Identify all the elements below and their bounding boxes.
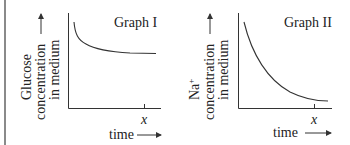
graph1-y-label-line3: in medium [48, 40, 62, 100]
graph1-title: Graph I [114, 16, 157, 30]
graph2-y-label-na: Na [187, 84, 202, 100]
graph2-x-tick-label: x [311, 113, 317, 127]
graph1-x-tick-label: x [141, 113, 147, 127]
graph1-y-label-line2: concentration [34, 44, 48, 120]
graph2-x-axis-label: time [273, 126, 298, 140]
graph2-y-label-line3: in medium [217, 40, 231, 100]
graph1-y-label-line1: Glucose [20, 54, 34, 100]
graph2-curve [244, 22, 328, 101]
graph2-y-label-plus: + [186, 79, 196, 84]
graph2-y-label-line1: Na+ [187, 79, 202, 100]
graph2-y-label-line2: concentration [203, 44, 217, 120]
graph2-title: Graph II [284, 16, 332, 30]
graph1-x-axis-label: time [109, 128, 134, 142]
